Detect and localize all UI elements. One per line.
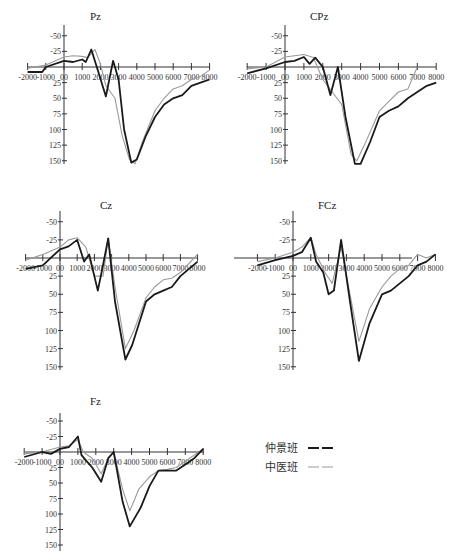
panel-title: Cz [100, 199, 112, 211]
y-tick-label: 50 [49, 290, 57, 299]
x-tick-label: 00 [289, 264, 297, 273]
panel-title: CPz [310, 10, 328, 22]
y-tick-label: 25 [49, 464, 57, 473]
y-tick-label: 50 [274, 94, 282, 103]
x-tick-label: 5000 [372, 73, 388, 82]
x-tick-label: 00 [56, 264, 64, 273]
x-tick-label: -2000 [248, 264, 267, 273]
panel-cpz: CPz-2000-1000001000200030004000500060007… [238, 10, 444, 166]
y-tick-label: 100 [45, 510, 57, 519]
x-tick-label: 4000 [129, 73, 145, 82]
panel-fcz: FCz-2000-1000001000200030004000500060007… [234, 199, 443, 372]
x-tick-label: 1000 [74, 73, 90, 82]
x-tick-label: 00 [60, 73, 68, 82]
x-tick-label: 8000 [427, 264, 443, 273]
y-tick-label: 75 [282, 308, 290, 317]
y-tick-label: -50 [50, 32, 61, 41]
x-tick-label: 4000 [356, 264, 372, 273]
y-tick-label: 125 [278, 345, 290, 354]
y-tick-label: -50 [46, 417, 57, 426]
y-tick-label: 150 [45, 541, 57, 550]
y-tick-label: -25 [46, 433, 57, 442]
y-tick-label: -25 [50, 47, 61, 56]
y-tick-label: -50 [279, 218, 290, 227]
y-tick-label: 25 [274, 79, 282, 88]
erp-chart-grid: Pz-2000-10000010002000300040005000600070… [0, 0, 449, 560]
y-tick-label: 100 [45, 327, 57, 336]
legend-label: 中医班 [265, 461, 298, 473]
x-tick-label: 5000 [147, 73, 163, 82]
y-tick-label: 75 [49, 495, 57, 504]
y-tick-label: -25 [271, 47, 282, 56]
x-tick-label: 2000 [315, 73, 331, 82]
y-tick-label: 125 [49, 141, 61, 150]
y-tick-label: 150 [278, 363, 290, 372]
panel-pz: Pz-2000-10000010002000300040005000600070… [18, 10, 217, 166]
panel-cz: Cz-2000-10000010002000300040005000600070… [16, 199, 205, 372]
y-tick-label: -25 [279, 236, 290, 245]
x-tick-label: 5000 [138, 264, 154, 273]
y-tick-label: 125 [45, 345, 57, 354]
x-tick-label: 6000 [165, 73, 181, 82]
y-tick-label: 150 [270, 157, 282, 166]
y-tick-label: 125 [45, 526, 57, 535]
x-tick-label: -2000 [238, 73, 257, 82]
y-tick-label: 75 [53, 110, 61, 119]
y-tick-label: 25 [282, 272, 290, 281]
x-tick-label: 5000 [374, 264, 390, 273]
x-tick-label: 4000 [124, 458, 140, 467]
x-tick-label: 6000 [159, 458, 175, 467]
y-tick-label: -25 [46, 236, 57, 245]
y-tick-label: 50 [282, 290, 290, 299]
panel-fz: Fz-2000-10000010002000300040005000600070… [15, 395, 211, 551]
y-tick-label: -50 [271, 32, 282, 41]
y-tick-label: 100 [278, 327, 290, 336]
legend-label: 仲景班 [265, 441, 298, 454]
x-tick-label: 1000 [69, 264, 85, 273]
y-tick-label: 75 [49, 308, 57, 317]
y-tick-label: 100 [49, 126, 61, 135]
panel-title: Pz [90, 10, 101, 22]
x-tick-label: 4000 [121, 264, 137, 273]
y-tick-label: 75 [274, 110, 282, 119]
x-tick-label: 2000 [86, 264, 102, 273]
y-tick-label: -50 [46, 218, 57, 227]
y-tick-label: 150 [49, 157, 61, 166]
x-tick-label: 00 [56, 458, 64, 467]
x-tick-label: 00 [281, 73, 289, 82]
x-tick-label: -2000 [18, 73, 37, 82]
legend: 仲景班中医班 [265, 441, 334, 473]
x-tick-label: 6000 [155, 264, 171, 273]
y-tick-label: 50 [49, 479, 57, 488]
x-tick-label: -2000 [15, 458, 34, 467]
x-tick-label: 4000 [353, 73, 369, 82]
x-tick-label: 8000 [195, 458, 211, 467]
y-tick-label: 100 [270, 126, 282, 135]
x-tick-label: -1000 [257, 73, 276, 82]
panel-title: Fz [90, 395, 101, 407]
x-tick-label: 5000 [142, 458, 158, 467]
x-tick-label: 1000 [303, 264, 319, 273]
y-tick-label: 50 [53, 94, 61, 103]
panel-title: FCz [318, 199, 336, 211]
y-tick-label: 25 [53, 79, 61, 88]
x-tick-label: 8000 [428, 73, 444, 82]
x-tick-label: 1000 [70, 458, 86, 467]
x-tick-label: 1000 [296, 73, 312, 82]
y-tick-label: 125 [270, 141, 282, 150]
y-tick-label: 150 [45, 363, 57, 372]
y-tick-label: 25 [49, 272, 57, 281]
x-tick-label: 6000 [390, 73, 406, 82]
